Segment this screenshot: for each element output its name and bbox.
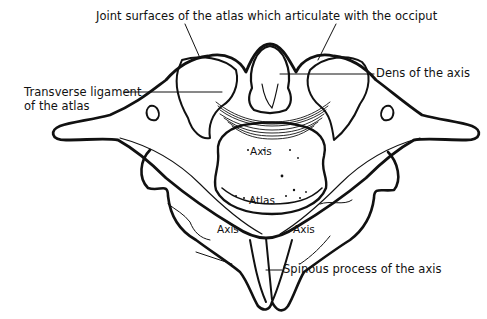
leader-joint-left (185, 24, 200, 58)
right-foramen (381, 106, 393, 120)
label-axis-right: Axis (293, 223, 315, 235)
label-axis-center: Axis (250, 145, 272, 157)
label-spinous-process: Spinous process of the axis (283, 263, 442, 276)
dens (249, 46, 291, 113)
label-transverse-ligament-line2: of the atlas (24, 100, 90, 113)
label-atlas: Atlas (249, 194, 275, 206)
label-axis-left: Axis (217, 223, 239, 235)
label-transverse-ligament-line1: Transverse ligament (24, 86, 141, 99)
diagram-canvas: Joint surfaces of the atlas which articu… (0, 0, 487, 319)
label-dens: Dens of the axis (376, 67, 470, 80)
right-joint-surface (308, 57, 369, 140)
transverse-ligament (216, 102, 330, 139)
left-joint-surface (177, 57, 237, 138)
left-foramen (147, 106, 159, 120)
label-joint-surfaces: Joint surfaces of the atlas which articu… (96, 10, 437, 23)
